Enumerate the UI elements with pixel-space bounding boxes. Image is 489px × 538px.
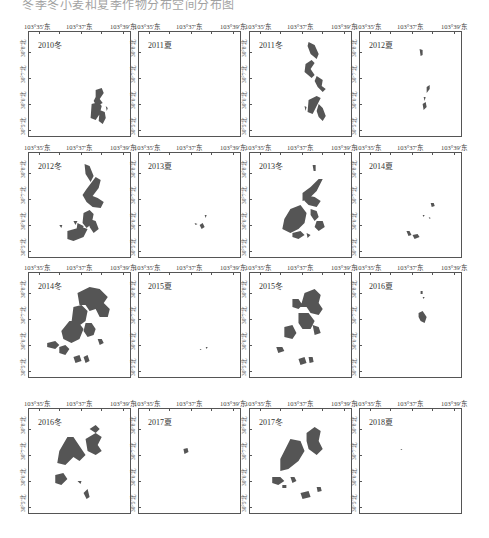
latitude-label: 30°6′北: [19, 212, 27, 230]
crop-area-patches: [406, 203, 434, 239]
latitude-axis-labels: 30°8′北30°7′北30°6′北30°5′北: [129, 31, 137, 137]
latitude-label: 30°5′北: [350, 238, 358, 256]
map-panel-2015-summer: 2015夏: [138, 272, 241, 378]
longitude-label: 103°35′东: [134, 262, 161, 272]
panel-title: 2013夏: [148, 160, 172, 171]
longitude-label: 103°37′东: [287, 142, 314, 152]
latitude-label: 30°8′北: [19, 416, 27, 434]
latitude-axis-labels: 30°8′北30°7′北30°6′北30°5′北: [240, 31, 248, 137]
map-panel-2016-winter: 2016冬: [28, 408, 131, 514]
latitude-label: 30°7′北: [240, 442, 248, 460]
latitude-label: 30°6′北: [129, 468, 137, 486]
map-panel-2012-summer: 2012夏: [359, 31, 462, 137]
longitude-axis-labels: 103°35′东103°37′东103°39′东: [22, 262, 134, 272]
latitude-axis-labels: 30°8′北30°7′北30°6′北30°5′北: [19, 408, 27, 514]
latitude-axis-labels: 30°8′北30°7′北30°6′北30°5′北: [129, 152, 137, 258]
latitude-label: 30°8′北: [19, 160, 27, 178]
crop-area-patches: [400, 449, 402, 450]
longitude-label: 103°35′东: [245, 398, 272, 408]
latitude-axis-labels: 30°8′北30°7′北30°6′北30°5′北: [240, 272, 248, 378]
longitude-axis-labels: 103°35′东103°37′东103°39′东: [22, 398, 134, 408]
latitude-label: 30°8′北: [19, 280, 27, 298]
panel-title: 2015冬: [259, 280, 283, 291]
latitude-axis-labels: 30°8′北30°7′北30°6′北30°5′北: [240, 408, 248, 514]
crop-area-patches: [200, 347, 208, 350]
latitude-label: 30°8′北: [240, 160, 248, 178]
panel-title: 2012冬: [38, 160, 62, 171]
figure-caption: 冬季冬小麦和夏季作物分布空间分布图: [22, 0, 235, 13]
panel-title: 2013冬: [259, 160, 283, 171]
longitude-label: 103°37′东: [66, 398, 93, 408]
latitude-label: 30°6′北: [350, 332, 358, 350]
longitude-label: 103°37′东: [176, 142, 203, 152]
latitude-label: 30°6′北: [19, 332, 27, 350]
latitude-label: 30°7′北: [240, 65, 248, 83]
latitude-label: 30°8′北: [19, 39, 27, 57]
panel-title: 2016夏: [369, 280, 393, 291]
latitude-label: 30°6′北: [240, 91, 248, 109]
map-panel-2018-summer: 2018夏: [359, 408, 462, 514]
latitude-label: 30°7′北: [350, 306, 358, 324]
latitude-label: 30°5′北: [129, 494, 137, 512]
latitude-axis-labels: 30°8′北30°7′北30°6′北30°5′北: [240, 152, 248, 258]
latitude-label: 30°5′北: [129, 238, 137, 256]
latitude-label: 30°6′北: [240, 212, 248, 230]
longitude-axis-labels: 103°35′东103°37′东103°39′东: [132, 142, 244, 152]
crop-area-patches: [305, 42, 326, 121]
latitude-label: 30°6′北: [350, 212, 358, 230]
latitude-axis-labels: 30°8′北30°7′北30°6′北30°5′北: [350, 31, 358, 137]
crop-area-patches: [195, 215, 207, 229]
longitude-label: 103°37′东: [176, 262, 203, 272]
panel-title: 2015夏: [148, 280, 172, 291]
longitude-axis-labels: 103°35′东103°37′东103°39′东: [22, 142, 134, 152]
longitude-label: 103°35′东: [355, 21, 382, 31]
map-panel-2011-summer: 2011夏: [138, 31, 241, 137]
longitude-label: 103°35′东: [134, 21, 161, 31]
latitude-label: 30°6′北: [350, 468, 358, 486]
latitude-label: 30°8′北: [129, 280, 137, 298]
latitude-label: 30°5′北: [240, 358, 248, 376]
crop-area-patches: [420, 49, 430, 110]
latitude-label: 30°7′北: [129, 65, 137, 83]
longitude-label: 103°37′东: [397, 21, 424, 31]
latitude-axis-labels: 30°8′北30°7′北30°6′北30°5′北: [19, 31, 27, 137]
latitude-label: 30°5′北: [350, 494, 358, 512]
panel-title: 2011冬: [259, 39, 283, 50]
longitude-label: 103°35′东: [134, 398, 161, 408]
longitude-label: 103°35′东: [355, 142, 382, 152]
longitude-axis-labels: 103°35′东103°37′东103°39′东: [243, 398, 355, 408]
longitude-label: 103°35′东: [245, 21, 272, 31]
latitude-label: 30°5′北: [129, 117, 137, 135]
latitude-label: 30°8′北: [240, 416, 248, 434]
latitude-label: 30°5′北: [129, 358, 137, 376]
panel-title: 2011夏: [148, 39, 172, 50]
latitude-label: 30°7′北: [129, 442, 137, 460]
latitude-label: 30°7′北: [129, 186, 137, 204]
longitude-label: 103°37′东: [397, 142, 424, 152]
longitude-axis-labels: 103°35′东103°37′东103°39′东: [353, 262, 465, 272]
latitude-label: 30°6′北: [240, 332, 248, 350]
longitude-label: 103°35′东: [24, 398, 51, 408]
latitude-label: 30°8′北: [240, 280, 248, 298]
longitude-label: 103°35′东: [24, 262, 51, 272]
longitude-axis-labels: 103°35′东103°37′东103°39′东: [353, 21, 465, 31]
longitude-label: 103°35′东: [355, 398, 382, 408]
crop-area-patches: [59, 164, 103, 241]
longitude-label: 103°39′东: [441, 398, 468, 408]
latitude-label: 30°5′北: [19, 117, 27, 135]
longitude-label: 103°37′东: [287, 398, 314, 408]
longitude-label: 103°35′东: [24, 142, 51, 152]
map-panel-2014-summer: 2014夏: [359, 152, 462, 258]
longitude-label: 103°35′东: [24, 21, 51, 31]
longitude-label: 103°37′东: [66, 142, 93, 152]
latitude-axis-labels: 30°8′北30°7′北30°6′北30°5′北: [19, 152, 27, 258]
latitude-label: 30°7′北: [19, 306, 27, 324]
latitude-label: 30°6′北: [129, 91, 137, 109]
map-panel-2011-winter: 2011冬: [249, 31, 352, 137]
map-panel-2010-winter: 2010冬: [28, 31, 131, 137]
longitude-label: 103°37′东: [287, 21, 314, 31]
panel-title: 2016冬: [38, 416, 62, 427]
longitude-axis-labels: 103°35′东103°37′东103°39′东: [353, 142, 465, 152]
longitude-axis-labels: 103°35′东103°37′东103°39′东: [22, 21, 134, 31]
longitude-label: 103°37′东: [397, 262, 424, 272]
